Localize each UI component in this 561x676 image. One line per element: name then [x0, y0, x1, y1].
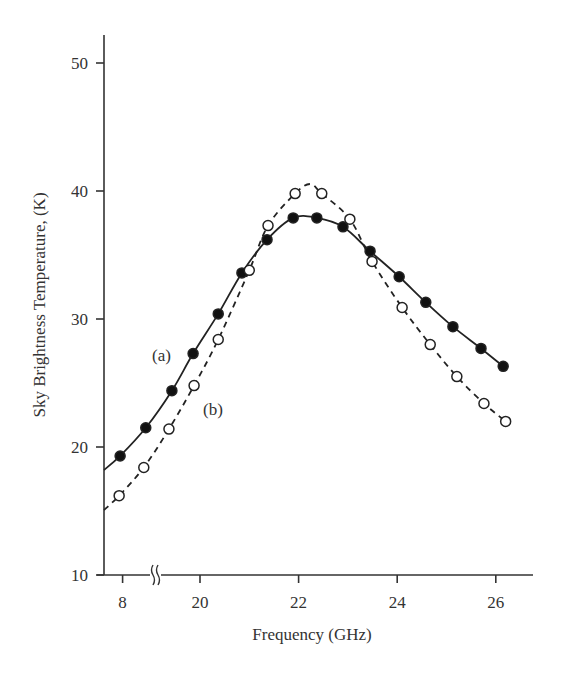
- y-tick-label: 30: [71, 310, 88, 329]
- open-marker: [397, 302, 407, 312]
- y-axis-title: Sky Brightness Temperature, (K): [30, 192, 49, 417]
- axes: [97, 35, 533, 575]
- open-marker: [501, 416, 511, 426]
- open-marker: [189, 381, 199, 391]
- series-a-line: [104, 216, 503, 470]
- open-marker: [479, 398, 489, 408]
- filled-marker: [448, 322, 458, 332]
- open-marker: [213, 334, 223, 344]
- y-tick-label: 50: [71, 54, 88, 73]
- y-tick-label: 20: [71, 438, 88, 457]
- markers: [114, 189, 511, 501]
- filled-marker: [188, 349, 198, 359]
- filled-marker: [167, 386, 177, 396]
- open-marker: [345, 214, 355, 224]
- filled-marker: [115, 451, 125, 461]
- open-marker: [317, 189, 327, 199]
- filled-marker: [262, 235, 272, 245]
- filled-marker: [421, 297, 431, 307]
- series-b-label: (b): [203, 400, 223, 419]
- open-marker: [425, 340, 435, 350]
- open-marker: [290, 189, 300, 199]
- open-marker: [139, 462, 149, 472]
- open-marker: [164, 424, 174, 434]
- filled-marker: [394, 272, 404, 282]
- x-tick-label: 20: [192, 593, 209, 612]
- open-marker: [263, 221, 273, 231]
- open-marker: [114, 491, 124, 501]
- y-tick-label: 40: [71, 182, 88, 201]
- x-axis-title: Frequency (GHz): [252, 625, 371, 644]
- open-marker: [244, 265, 254, 275]
- open-marker: [452, 372, 462, 382]
- y-ticks: 1020304050: [71, 54, 104, 585]
- x-tick-label: 22: [290, 593, 307, 612]
- series-a-label: (a): [152, 346, 171, 365]
- filled-marker: [213, 309, 223, 319]
- open-marker: [367, 256, 377, 266]
- axis-break-icon: [150, 565, 161, 585]
- x-tick-label: 26: [487, 593, 504, 612]
- filled-marker: [476, 343, 486, 353]
- filled-marker: [498, 361, 508, 371]
- filled-marker: [312, 213, 322, 223]
- x-tick-label: 24: [389, 593, 407, 612]
- x-tick-label: 8: [118, 593, 127, 612]
- y-tick-label: 10: [71, 566, 88, 585]
- filled-marker: [141, 423, 151, 433]
- chart: 1020304050 820222426 Frequency (GHz) Sky…: [0, 0, 561, 676]
- x-ticks: 820222426: [118, 575, 504, 612]
- filled-marker: [288, 213, 298, 223]
- filled-marker: [365, 246, 375, 256]
